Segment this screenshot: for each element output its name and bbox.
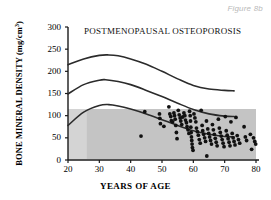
data-point xyxy=(205,154,209,158)
data-point xyxy=(186,128,190,132)
data-point xyxy=(245,139,249,143)
data-point xyxy=(173,117,177,121)
data-point xyxy=(139,134,143,138)
data-point xyxy=(215,144,219,148)
data-point xyxy=(243,135,247,139)
data-point xyxy=(202,132,206,136)
y-tick-label: 0 xyxy=(33,156,61,165)
y-tick-label: 250 xyxy=(33,45,61,54)
x-tick-label: 60 xyxy=(181,165,205,174)
x-tick-label: 80 xyxy=(244,165,268,174)
data-point xyxy=(254,142,258,146)
data-point xyxy=(188,114,192,118)
data-point xyxy=(143,110,147,114)
data-point xyxy=(189,131,193,135)
data-point xyxy=(167,105,171,109)
data-point xyxy=(207,132,211,136)
data-point xyxy=(210,142,214,146)
x-tick-label: 40 xyxy=(119,165,143,174)
data-point xyxy=(190,142,194,146)
data-point xyxy=(217,126,221,130)
figure-container: Figure 8b POSTMENOPAUSAL OSTEOPOROSIS BO… xyxy=(0,0,271,200)
data-point xyxy=(226,137,230,141)
data-point xyxy=(214,140,218,144)
data-point xyxy=(196,133,200,137)
data-point xyxy=(201,129,205,133)
data-point xyxy=(158,116,162,120)
data-point xyxy=(159,122,163,126)
data-point xyxy=(208,135,212,139)
x-tick-label: 50 xyxy=(150,165,174,174)
y-tick-label: 300 xyxy=(33,23,61,32)
data-point xyxy=(227,140,231,144)
data-point xyxy=(200,124,204,128)
data-point xyxy=(237,138,241,142)
data-point xyxy=(228,144,232,148)
data-point xyxy=(189,125,193,129)
data-point xyxy=(242,125,246,129)
data-point xyxy=(231,136,235,140)
data-point xyxy=(185,121,189,125)
data-point xyxy=(197,138,201,142)
data-point xyxy=(222,145,226,149)
data-point xyxy=(162,124,166,128)
data-point xyxy=(233,143,237,147)
data-point xyxy=(189,119,193,123)
data-point xyxy=(248,132,252,136)
data-point xyxy=(250,147,254,151)
data-point xyxy=(199,108,203,112)
data-point xyxy=(158,112,162,116)
data-point xyxy=(205,119,209,123)
data-point xyxy=(219,134,223,138)
data-point xyxy=(235,134,239,138)
data-point xyxy=(175,137,179,141)
data-point xyxy=(169,115,173,119)
data-point xyxy=(211,128,215,132)
data-point xyxy=(191,148,195,152)
data-point xyxy=(183,114,187,118)
data-point xyxy=(220,138,224,142)
data-point xyxy=(225,133,229,137)
y-tick-label: 50 xyxy=(33,133,61,142)
data-point xyxy=(252,136,256,140)
y-tick-label: 100 xyxy=(33,111,61,120)
data-point xyxy=(213,136,217,140)
data-point xyxy=(190,139,194,143)
data-point xyxy=(188,109,192,113)
data-point xyxy=(223,115,227,119)
data-point xyxy=(198,141,202,145)
data-point xyxy=(203,136,207,140)
data-point xyxy=(217,117,221,121)
data-point xyxy=(196,130,200,134)
data-point xyxy=(206,127,210,131)
data-point xyxy=(173,114,177,118)
x-tick-label: 70 xyxy=(213,165,237,174)
data-point xyxy=(176,108,180,112)
percentile-curve-0 xyxy=(68,55,234,91)
data-point xyxy=(174,124,178,128)
x-tick-label: 20 xyxy=(56,165,80,174)
data-point xyxy=(179,119,183,123)
data-point xyxy=(180,123,184,127)
data-point xyxy=(190,135,194,139)
data-point xyxy=(193,116,197,120)
data-point xyxy=(192,112,196,116)
data-point xyxy=(194,120,198,124)
data-point xyxy=(211,123,215,127)
y-tick-label: 150 xyxy=(33,89,61,98)
data-point xyxy=(230,132,234,136)
data-point xyxy=(232,139,236,143)
data-point xyxy=(224,129,228,133)
data-point xyxy=(218,131,222,135)
data-point xyxy=(209,139,213,143)
data-point xyxy=(238,141,242,145)
y-tick-label: 200 xyxy=(33,67,61,76)
data-point xyxy=(175,131,179,135)
data-point xyxy=(212,132,216,136)
x-tick-label: 30 xyxy=(87,165,111,174)
data-point xyxy=(234,116,238,120)
data-point xyxy=(221,141,225,145)
data-point xyxy=(204,139,208,143)
data-point xyxy=(229,120,233,124)
data-point xyxy=(195,126,199,130)
